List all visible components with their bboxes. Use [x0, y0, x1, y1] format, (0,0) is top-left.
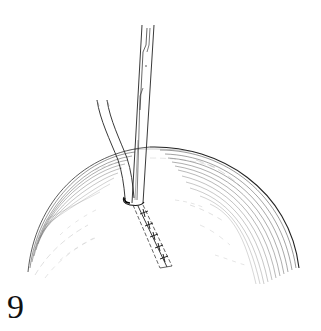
- instrument: [132, 25, 154, 203]
- dome: [28, 147, 299, 284]
- illustration: 9: [0, 0, 321, 331]
- insertion-opening: [123, 197, 144, 205]
- surgical-illustration: [0, 0, 321, 331]
- tube: [97, 100, 134, 198]
- sutured-incision: [133, 205, 172, 268]
- figure-number: 9: [7, 290, 24, 324]
